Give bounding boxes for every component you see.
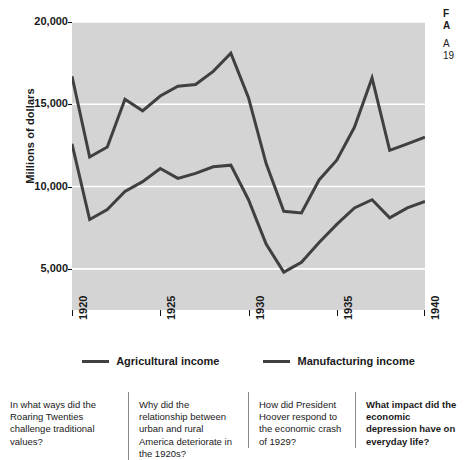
x-axis-tick-label: 1940 <box>429 296 441 320</box>
series-line-agricultural-income <box>72 144 425 272</box>
x-axis-tick-label: 1925 <box>165 296 177 320</box>
figure-caption-title: F A <box>443 8 469 32</box>
chart-legend: Agricultural income Manufacturing income <box>72 350 425 372</box>
review-question-strip: In what ways did the Roaring Twenties ch… <box>0 392 469 455</box>
series-lines <box>72 53 425 272</box>
legend-entry-manufacturing-income: Manufacturing income <box>263 355 414 367</box>
legend-entry-agricultural-income: Agricultural income <box>82 355 219 367</box>
y-axis-tick-label: 5,000 <box>22 263 68 274</box>
x-axis-tick-mark <box>337 310 338 316</box>
review-question-3[interactable]: How did President Hoover respond to the … <box>248 392 355 448</box>
y-axis-tick-label: 20,000 <box>22 16 68 27</box>
y-axis-tick-label: 15,000 <box>22 98 68 109</box>
review-question-1[interactable]: In what ways did the Roaring Twenties ch… <box>0 392 128 448</box>
figure-caption: F A A 19 <box>443 8 469 62</box>
review-question-2[interactable]: Why did the relationship between urban a… <box>128 392 248 460</box>
plot-area <box>72 22 425 310</box>
x-axis-tick-mark <box>72 310 73 316</box>
income-line-chart-figure: Millions of dollars 20,00015,00010,0005,… <box>0 0 440 380</box>
series-line-manufacturing-income <box>72 53 425 213</box>
plot-canvas <box>72 22 425 310</box>
legend-label-manufacturing-income: Manufacturing income <box>297 355 414 367</box>
y-axis-tick-group: 20,00015,00010,0005,000 <box>16 0 68 320</box>
x-axis-tick-mark <box>160 310 161 316</box>
x-axis-tick-label: 1930 <box>254 296 266 320</box>
gridlines <box>72 22 425 269</box>
x-axis-tick-mark <box>424 310 425 316</box>
legend-label-agricultural-income: Agricultural income <box>116 355 219 367</box>
legend-line-swatch-icon <box>82 360 109 363</box>
review-question-4[interactable]: What impact did the economic depression … <box>355 392 469 448</box>
legend-line-swatch-icon <box>263 360 290 363</box>
x-axis-tick-label: 1935 <box>342 296 354 320</box>
x-axis-tick-mark <box>249 310 250 316</box>
figure-caption-body: A 19 <box>443 38 469 62</box>
x-axis-tick-label: 1920 <box>77 296 89 320</box>
y-axis-tick-label: 10,000 <box>22 181 68 192</box>
